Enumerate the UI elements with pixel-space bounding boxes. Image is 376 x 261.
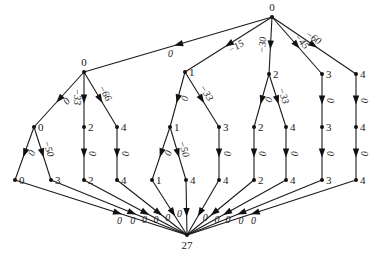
node-dot [49, 178, 53, 182]
node-label: 4 [290, 121, 296, 133]
node-dot [252, 125, 256, 129]
edge-weight-label: 0 [117, 215, 122, 226]
node-label: 4 [121, 121, 127, 133]
edge-l3-sink: 0 [51, 180, 187, 235]
edge-weight-label: 0 [289, 151, 300, 156]
edge-weight-label: −33 [72, 88, 83, 105]
node-dot [150, 178, 154, 182]
node-dot [320, 125, 324, 129]
edge-weight-label: 0 [168, 48, 173, 59]
node-dot [168, 125, 172, 129]
node-dot [284, 178, 288, 182]
edge-l4c-sink: 0 [187, 180, 219, 235]
node-label: 3 [55, 174, 61, 186]
edge-weight-label: 0 [142, 214, 147, 225]
arrowhead-icon [173, 40, 183, 49]
node-root: 0 [269, 1, 275, 19]
node-label: 2 [273, 68, 279, 80]
edge-weight-label: 0 [162, 149, 174, 157]
arrowhead-icon [216, 149, 222, 158]
arrowhead-icon [183, 208, 190, 217]
edge-weight-label: 0 [222, 151, 233, 156]
edge-weight-label: 0 [87, 151, 98, 156]
edge-b-b3: −33 [185, 72, 219, 127]
node-dot [354, 178, 358, 182]
arrowhead-icon [283, 149, 289, 158]
edge-a2-l2: 0 [81, 127, 98, 180]
node-dot [270, 15, 274, 19]
network-diagram: 0−15−30−45−600−33−660−330−33000−50000−50… [0, 0, 376, 261]
edge-weight-label: 0 [325, 98, 336, 103]
node-label: 1 [174, 121, 180, 133]
arrowhead-icon [319, 149, 325, 158]
node-dot [82, 178, 86, 182]
arrowhead-icon [114, 149, 120, 158]
edge-c4-l4d: 0 [283, 127, 300, 180]
edge-line [187, 180, 322, 235]
edge-weight-label: 0 [26, 149, 38, 157]
edge-weight-label: 0 [120, 151, 131, 156]
edge-a-a2: −33 [72, 72, 87, 127]
node-label: 0 [38, 121, 44, 133]
arrowhead-icon [267, 40, 274, 49]
arrowhead-icon [251, 149, 257, 158]
node-dot [82, 125, 86, 129]
node-label: 27 [182, 239, 194, 251]
edge-weight-label: 0 [359, 151, 370, 156]
node-dot [183, 70, 187, 74]
node-l0: 0 [13, 174, 25, 186]
node-dot [354, 72, 358, 76]
edge-line [186, 180, 187, 235]
node-dot [13, 178, 17, 182]
arrowhead-icon [81, 149, 87, 158]
edge-a4-l4a: 0 [114, 127, 131, 180]
node-dot [354, 125, 358, 129]
edge-weight-label: −15 [226, 37, 246, 55]
node-label: 3 [326, 121, 332, 133]
edge-l4b-sink: 0 [177, 180, 190, 235]
node-label: 2 [258, 174, 264, 186]
edge-b-b1: 0 [170, 72, 190, 127]
node-label: 4 [121, 174, 127, 186]
edge-line [15, 180, 187, 235]
node-dot [217, 178, 221, 182]
node-label: 1 [189, 66, 195, 78]
node-b1: 1 [168, 121, 180, 133]
node-dot [185, 233, 189, 237]
edge-a0-l3: −50 [34, 127, 57, 180]
edges-layer: 0−15−30−45−600−33−660−330−33000−50000−50… [15, 17, 370, 235]
node-dot [82, 70, 86, 74]
node-sink: 27 [182, 233, 194, 251]
node-dot [320, 72, 324, 76]
edge-weight-label: 0 [154, 214, 159, 225]
edge-l0-sink: 0 [15, 180, 187, 235]
node-label: 4 [360, 121, 366, 133]
edge-d-d3: 0 [319, 74, 336, 127]
node-label: 2 [258, 121, 264, 133]
edge-weight-label: 0 [251, 215, 256, 226]
node-label: 4 [290, 174, 296, 186]
node-label: 4 [223, 174, 229, 186]
edge-line [51, 180, 187, 235]
edge-line [187, 180, 254, 235]
node-label: 3 [326, 174, 332, 186]
edge-c2-l2b: 0 [251, 127, 268, 180]
edge-weight-label: 0 [61, 96, 73, 107]
node-label: 3 [326, 68, 332, 80]
node-l1: 1 [150, 174, 162, 186]
node-dot [267, 72, 271, 76]
edge-weight-label: 0 [179, 95, 191, 103]
node-label: 0 [81, 56, 87, 68]
node-dot [252, 178, 256, 182]
arrowhead-icon [353, 96, 359, 105]
node-label: 2 [88, 121, 94, 133]
edge-l3b-sink: 0 [187, 180, 322, 235]
edge-weight-label: 0 [226, 214, 231, 225]
edge-weight-label: 0 [165, 212, 170, 223]
edge-weight-label: 0 [130, 215, 135, 226]
node-label: 4 [360, 174, 366, 186]
node-label: 2 [88, 174, 94, 186]
node-label: 3 [223, 121, 229, 133]
edge-e4-l4e: 0 [353, 127, 370, 180]
node-dot [217, 125, 221, 129]
